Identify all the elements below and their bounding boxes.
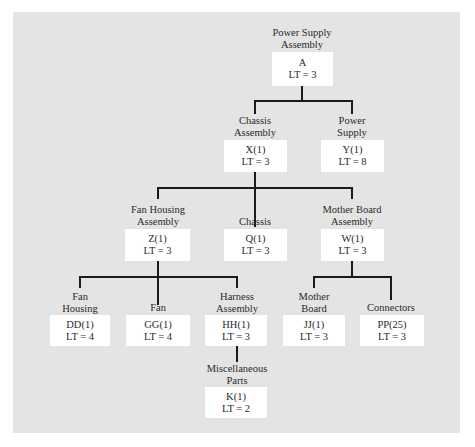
node-label-z: Fan HousingAssembly — [131, 204, 185, 228]
node-label-gg: Fan — [150, 302, 166, 314]
connector-line — [254, 100, 256, 114]
node-gg: GG(1)LT = 4 — [126, 315, 190, 346]
node-label-y: PowerSupply — [337, 115, 367, 139]
connector-line — [313, 276, 315, 288]
connector-line — [79, 276, 81, 288]
node-pp: PP(25)LT = 3 — [360, 315, 424, 346]
node-x: X(1)LT = 3 — [224, 140, 287, 172]
node-w: W(1)LT = 3 — [321, 229, 384, 261]
node-hh: HH(1)LT = 3 — [205, 315, 267, 346]
node-q: Q(1)LT = 3 — [224, 229, 287, 261]
node-label-x: ChassisAssembly — [234, 115, 276, 139]
connector-line — [254, 100, 353, 102]
node-jj: JJ(1)LT = 3 — [283, 315, 345, 346]
connector-line — [351, 100, 353, 114]
node-label-q: Chassis — [239, 216, 271, 228]
node-label-w: Mother BoardAssembly — [322, 204, 381, 228]
node-label-k: MiscellaneousParts — [207, 363, 268, 387]
node-a: ALT = 3 — [272, 52, 333, 86]
connector-line — [351, 187, 353, 199]
connector-line — [236, 346, 238, 362]
connector-line — [313, 276, 392, 278]
connector-line — [79, 276, 238, 278]
connector-line — [390, 276, 392, 300]
node-label-jj: MotherBoard — [299, 291, 330, 315]
node-label-dd: FanHousing — [62, 291, 98, 315]
node-label-pp: Connectors — [367, 302, 415, 314]
node-k: K(1)LT = 2 — [205, 387, 267, 418]
connector-line — [157, 187, 159, 199]
node-y: Y(1)LT = 8 — [321, 140, 384, 172]
node-label-hh: HarnessAssembly — [216, 291, 258, 315]
connector-line — [157, 261, 159, 305]
node-dd: DD(1)LT = 4 — [50, 315, 110, 346]
node-label-a: Power SupplyAssembly — [272, 27, 331, 51]
node-z: Z(1)LT = 3 — [125, 229, 190, 261]
connector-line — [236, 276, 238, 288]
connector-line — [157, 187, 353, 189]
